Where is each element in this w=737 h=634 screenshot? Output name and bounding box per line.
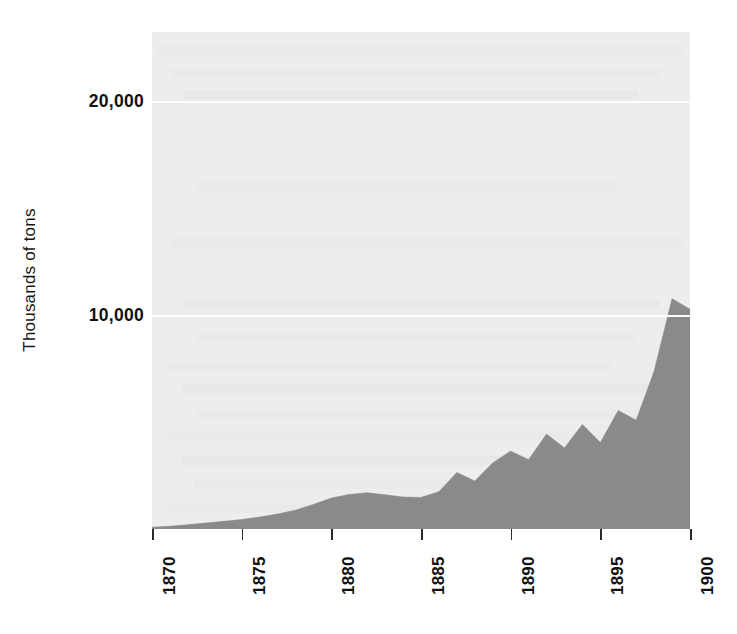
x-tick-mark-1875	[242, 529, 244, 540]
x-tick-label-1900: 1900	[698, 556, 718, 595]
x-tick-label-1880: 1880	[339, 556, 359, 595]
x-tick-mark-1870	[152, 529, 154, 540]
y-axis-tick-labels: 10,00020,000	[60, 0, 144, 560]
x-tick-mark-1885	[421, 529, 423, 540]
x-tick-label-1890: 1890	[519, 556, 539, 595]
x-tick-label-1870: 1870	[160, 556, 180, 595]
x-tick-label-1895: 1895	[608, 556, 628, 595]
x-tick-mark-1900	[690, 529, 692, 540]
area-fill	[152, 299, 690, 529]
x-tick-mark-1890	[511, 529, 513, 540]
x-tick-label-1875: 1875	[250, 556, 270, 595]
x-axis: 1870187518801885189018951900	[152, 529, 690, 629]
area-series	[152, 32, 690, 529]
gridline-10000	[152, 315, 690, 317]
chart-figure: Thousands of tons 10,00020,000 187018751…	[0, 0, 737, 634]
x-tick-mark-1895	[600, 529, 602, 540]
gridline-20000	[152, 101, 690, 103]
x-tick-mark-1880	[331, 529, 333, 540]
plot-area	[152, 32, 690, 529]
y-tick-label-10000: 10,000	[60, 305, 144, 326]
y-axis-title: Thousands of tons	[0, 0, 60, 560]
y-tick-label-20000: 20,000	[60, 91, 144, 112]
y-axis-title-label: Thousands of tons	[20, 208, 40, 351]
x-tick-label-1885: 1885	[429, 556, 449, 595]
